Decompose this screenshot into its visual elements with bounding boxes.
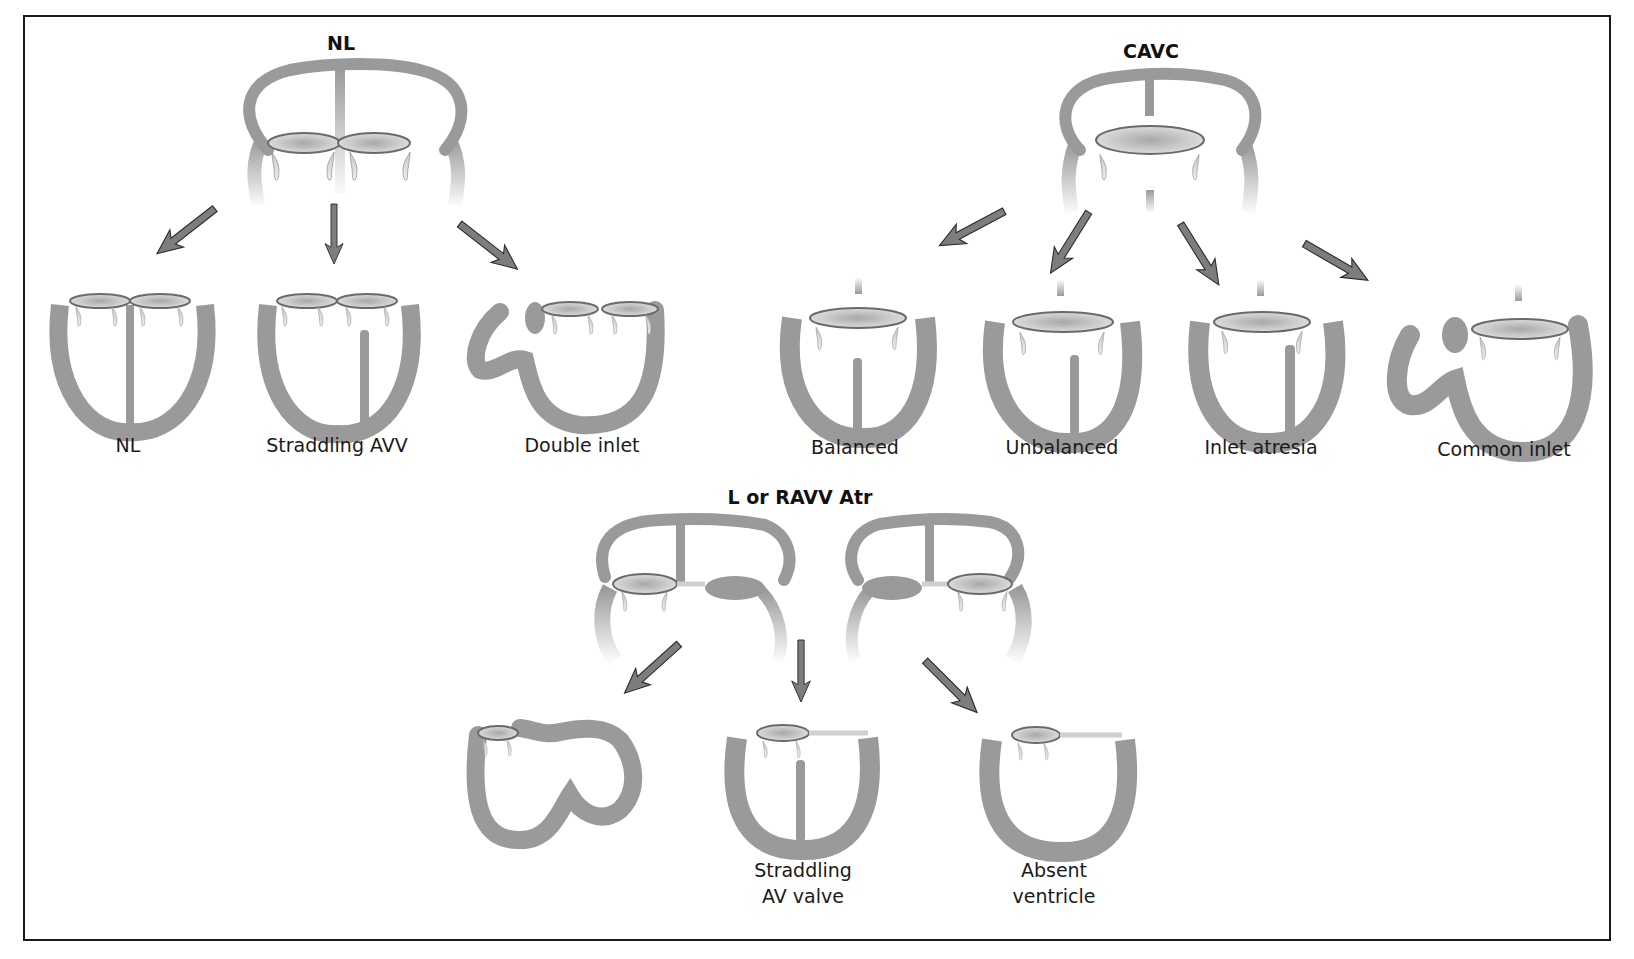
cavc-child-common-inlet	[1397, 285, 1583, 452]
label-nl: NL	[116, 432, 141, 458]
group-title-cavc: CAVC	[1123, 40, 1179, 62]
arrow-atresia-to-straddling	[792, 640, 811, 702]
nl-child-double-inlet	[476, 275, 658, 425]
arrow-cavc-to-unbalanced	[1041, 206, 1097, 279]
arrow-nl-to-nl	[150, 200, 221, 262]
label-unbalanced: Unbalanced	[1006, 434, 1119, 460]
label-absent-ventricle: Absent ventricle	[1013, 857, 1096, 909]
arrow-cavc-to-balanced	[934, 202, 1009, 256]
cavc-child-inlet-atresia	[1198, 280, 1335, 443]
label-straddling-av-valve: Straddling AV valve	[754, 857, 852, 909]
group-title-avv-atresia: L or RAVV Atr	[728, 486, 873, 508]
cavc-parent-heart	[1065, 74, 1255, 212]
arrow-cavc-to-inlet-atresia	[1172, 218, 1228, 291]
arrow-atresia-to-double-inlet	[617, 636, 686, 701]
cavc-child-unbalanced	[993, 280, 1132, 443]
label-balanced: Balanced	[811, 434, 899, 460]
atresia-child-absent-ventricle	[989, 705, 1128, 852]
heart-diagram	[0, 0, 1634, 959]
atresia-child-straddling-av-valve	[734, 705, 872, 850]
label-straddling-avv: Straddling AVV	[266, 432, 408, 458]
nl-child-straddling-avv	[266, 275, 411, 434]
avv-atresia-parent-right	[851, 519, 1023, 660]
avv-atresia-parent-left	[602, 519, 789, 660]
nl-parent-heart	[249, 64, 461, 205]
arrow-nl-to-double-inlet	[453, 215, 524, 277]
label-inlet-atresia: Inlet atresia	[1204, 434, 1317, 460]
arrow-cavc-to-common-inlet	[1299, 234, 1374, 290]
arrow-atresia-to-absent	[917, 653, 984, 720]
label-common-inlet: Common inlet	[1437, 436, 1570, 462]
label-double-inlet: Double inlet	[524, 432, 639, 458]
cavc-child-balanced	[790, 278, 927, 438]
nl-child-normal	[58, 275, 206, 432]
atresia-child-double-inlet	[476, 705, 634, 840]
arrow-nl-to-straddling	[325, 204, 343, 264]
group-title-nl: NL	[327, 32, 355, 54]
